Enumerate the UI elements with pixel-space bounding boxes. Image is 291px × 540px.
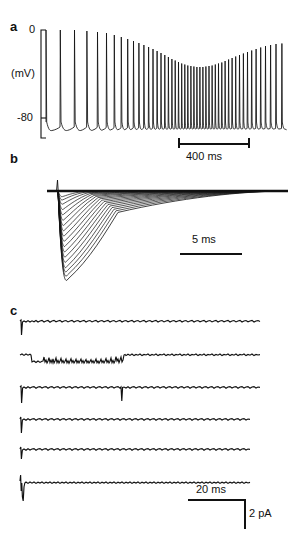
panel-b-current-family [47, 180, 288, 280]
panel-b-plot [0, 178, 291, 298]
panel-c-scale-label-current: 2 pA [249, 508, 272, 519]
panel-b-scale-bar [180, 253, 242, 255]
panel-a-scale-bar [178, 143, 250, 145]
panel-c-trace-2 [20, 354, 260, 363]
panel-a-scale-bar-cap-left [178, 138, 180, 148]
panel-c-plot [0, 315, 291, 530]
panel-letter-b: b [10, 152, 18, 165]
panel-c-trace-4 [20, 417, 250, 433]
figure-canvas: a 0 (mV) -80 400 ms b [0, 0, 291, 540]
panel-a-spike-train [46, 30, 287, 131]
panel-c-trace-3 [20, 386, 260, 403]
panel-a-scale-label: 400 ms [186, 151, 222, 162]
panel-a-scale-bar-cap-right [248, 138, 250, 148]
panel-c-trace-1 [20, 320, 260, 335]
panel-c-trace-5 [20, 447, 250, 459]
panel-c-scale-bar-horizontal [188, 499, 246, 501]
panel-a-y-axis [41, 30, 46, 138]
panel-b-scale-label: 5 ms [192, 234, 216, 245]
panel-c-scale-label-time: 20 ms [196, 484, 226, 495]
panel-c-scale-bar-vertical [244, 499, 246, 529]
